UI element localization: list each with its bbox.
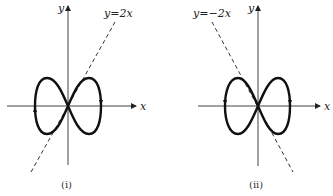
- dashed-line-y-neg2x: [212, 22, 293, 172]
- x-axis-label: x: [140, 100, 147, 113]
- y-axis-label: y: [57, 2, 65, 15]
- panel-caption: (i): [61, 179, 72, 190]
- figure-canvas: x y y=2x (i) x y y=−2x (ii): [0, 0, 333, 196]
- y-axis-label: y: [247, 2, 255, 15]
- x-axis-label: x: [324, 100, 331, 113]
- panel-ii: x y y=−2x (ii): [192, 2, 331, 190]
- arrow-icon: [99, 100, 103, 106]
- line-label: y=2x: [103, 7, 133, 20]
- panel-i: x y y=2x (i): [7, 2, 147, 190]
- line-label: y=−2x: [192, 7, 232, 20]
- arrow-icon: [223, 100, 227, 106]
- arrow-icon: [288, 100, 292, 106]
- arrow-icon: [33, 106, 37, 112]
- panel-caption: (ii): [249, 179, 263, 190]
